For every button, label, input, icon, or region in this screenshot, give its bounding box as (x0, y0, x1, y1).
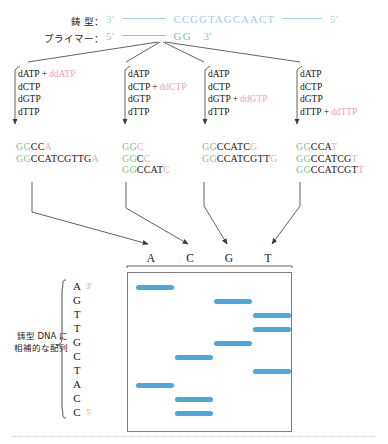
band-T-8 (253, 313, 291, 318)
product-item: GGC (122, 141, 170, 153)
mix-row: dATP (208, 68, 268, 81)
readout-letter: C (71, 391, 83, 405)
product-primer: GG (296, 153, 311, 164)
lane-label-G: G (221, 252, 237, 264)
readout-caption: 鋳型 DNA に 相補的な配列 (10, 330, 68, 354)
dntp-label: dGTP (128, 94, 151, 104)
product-item: GGCCATCGTT (296, 164, 364, 176)
mix-row: dCTP (300, 81, 357, 94)
dntp-label: dTTP (128, 107, 150, 117)
product-item: GGCC (122, 153, 170, 165)
template-3prime-label: 3' (106, 13, 115, 25)
readout-3prime-label: 3' (86, 281, 92, 291)
primer-3prime-label: 3' (203, 30, 212, 42)
band-C-1 (175, 411, 213, 416)
products-A: GGCCA GGCCATCGTTGA (16, 141, 99, 164)
band-T-4 (253, 369, 291, 374)
dntp-label: dGTP (18, 94, 41, 104)
product-body: CCA (311, 141, 331, 152)
mix-row: dATP+ddATP (18, 68, 75, 81)
product-body: CCATCGTTG (31, 153, 92, 164)
mix-row: dGTP (300, 93, 357, 106)
mix-row: dCTP+ddCTP (128, 81, 186, 94)
product-primer: GG (202, 153, 217, 164)
product-terminator: A (45, 141, 52, 152)
template-right-line (282, 18, 322, 19)
dntp-label: dATP (300, 69, 322, 79)
dntp-label: dCTP (300, 82, 322, 92)
gel-electrophoresis-box (127, 272, 292, 432)
reaction-mix-A: dATP+ddATP dCTP dGTP dTTP (18, 68, 75, 118)
band-G-6 (214, 341, 252, 346)
sanger-sequencing-diagram: 鋳 型： 3' CCGGTAGCAACT 5' プライマー： 5' GG 3' … (0, 0, 388, 444)
reaction-box-C: dATP dCTP+ddCTP dGTP dTTP (128, 68, 186, 118)
dntp-label: dCTP (208, 82, 230, 92)
reaction-box-A: dATP+ddATP dCTP dGTP dTTP (18, 68, 75, 118)
readout-letter: A (71, 279, 83, 293)
dntp-label: dGTP (300, 94, 323, 104)
reaction-box-G: dATP dCTP dGTP+ddGTP dTTP (208, 68, 268, 118)
product-terminator: T (358, 164, 364, 175)
product-item: GGCCAT (296, 141, 364, 153)
ddntp-label: ddCTP (160, 82, 187, 92)
ddntp-label: ddATP (49, 69, 75, 79)
product-terminator: G (270, 153, 277, 164)
dntp-label: dATP (18, 69, 40, 79)
reaction-mix-T: dATP dCTP dGTP dTTP+ddTTP (300, 68, 357, 118)
product-primer: GG (296, 164, 311, 175)
dntp-label: dTTP (208, 107, 230, 117)
products-T: GGCCAT GGCCATCGT GGCCATCGTT (296, 141, 364, 176)
readout-column: A G T T G C T A C C (71, 279, 83, 419)
template-row-label: 鋳 型： (34, 14, 104, 28)
mix-row: dTTP (128, 106, 186, 119)
band-T-7 (253, 327, 291, 332)
product-item: GGCCATCGTTG (202, 153, 278, 165)
primer-strand: 5' GG 3' (106, 30, 212, 42)
load-arrows (32, 182, 300, 244)
dntp-label: dGTP (208, 94, 231, 104)
lane-label-A: A (143, 252, 159, 264)
product-primer: GG (122, 153, 137, 164)
ddntp-label: ddTTP (331, 107, 357, 117)
product-terminator: C (137, 141, 144, 152)
product-body: CCAT (137, 164, 163, 175)
caption-line-2: 相補的な配列 (10, 342, 68, 354)
readout-letter: T (71, 321, 83, 335)
band-A-3 (136, 383, 174, 388)
primer-line (122, 35, 166, 36)
readout-letter: G (71, 335, 83, 349)
product-body: C (137, 153, 144, 164)
product-body: CCATCGT (311, 164, 358, 175)
product-primer: GG (296, 141, 311, 152)
mix-row: dGTP+ddGTP (208, 93, 268, 106)
readout-letter: G (71, 293, 83, 307)
readout-5prime-label: 5' (86, 407, 92, 417)
mix-row: dTTP+ddTTP (300, 106, 357, 119)
product-body: CCATCG (311, 153, 352, 164)
product-item: GGCCATC (122, 164, 170, 176)
band-G-9 (214, 299, 252, 304)
readout-letter: T (71, 307, 83, 321)
product-terminator: C (144, 153, 151, 164)
mix-row: dGTP (128, 93, 186, 106)
dntp-label: dATP (128, 69, 150, 79)
products-C: GGC GGCC GGCCATC (122, 141, 170, 176)
mix-row: dGTP (18, 93, 75, 106)
lane-label-C: C (182, 252, 198, 264)
template-strand: 3' CCGGTAGCAACT 5' (106, 13, 338, 25)
reaction-mix-C: dATP dCTP+ddCTP dGTP dTTP (128, 68, 186, 118)
dntp-label: dTTP (300, 107, 322, 117)
plus-sign: + (324, 107, 329, 117)
mix-row: dCTP (208, 81, 268, 94)
plus-sign: + (152, 82, 157, 92)
reaction-mix-G: dATP dCTP dGTP+ddGTP dTTP (208, 68, 268, 118)
readout-letter: A (71, 377, 83, 391)
plus-sign: + (233, 94, 238, 104)
product-primer: GG (122, 164, 137, 175)
lane-label-T: T (260, 252, 276, 264)
plus-sign: + (42, 69, 47, 79)
ddntp-label: ddGTP (240, 94, 267, 104)
mix-row: dATP (300, 68, 357, 81)
template-left-line (122, 18, 166, 19)
product-terminator: T (352, 153, 358, 164)
